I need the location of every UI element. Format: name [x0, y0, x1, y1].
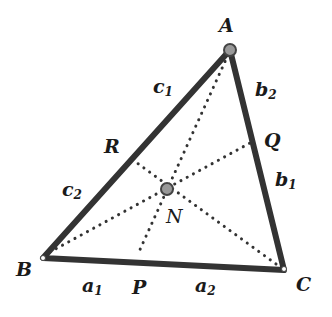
label-N: N: [166, 207, 183, 226]
label-B: B: [16, 260, 32, 279]
label-c2: c2: [62, 180, 82, 201]
point-N[interactable]: [161, 183, 173, 195]
cevian-CR: [133, 160, 276, 264]
vertex-B-point: [41, 256, 46, 261]
vertex-C-point: [282, 267, 287, 272]
label-R: R: [104, 137, 120, 156]
vertex-A-point[interactable]: [224, 44, 236, 56]
label-Q: Q: [264, 131, 281, 150]
label-c1: c1: [153, 77, 173, 98]
label-b1: b1: [275, 170, 297, 191]
label-A: A: [219, 16, 234, 35]
label-a2: a2: [195, 276, 216, 297]
triangle-diagram: [0, 0, 332, 317]
label-b2: b2: [255, 80, 277, 101]
label-a1: a1: [82, 276, 103, 297]
label-C: C: [296, 275, 311, 294]
cevian-AP: [138, 55, 228, 254]
label-P: P: [132, 278, 146, 297]
